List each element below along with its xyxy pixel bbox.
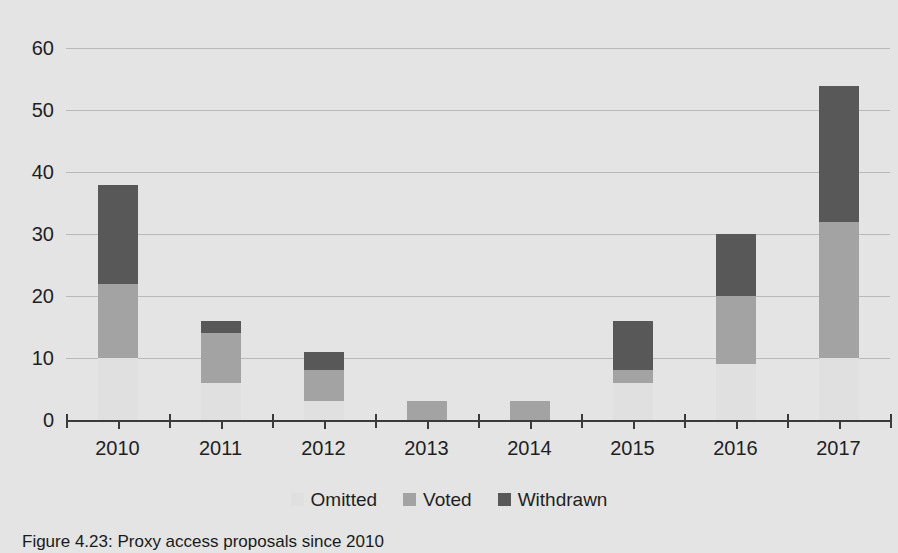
x-tick-major-6: [684, 414, 686, 428]
y-tick-label-20: 20: [32, 286, 54, 306]
x-tick-major-4: [478, 414, 480, 428]
x-tick-minor-2015: [633, 420, 635, 429]
y-tick-label-10: 10: [32, 348, 54, 368]
bar-segment-2016-withdrawn: [716, 234, 756, 296]
x-tick-label-2013: 2013: [404, 438, 449, 458]
bar-segment-2017-voted: [819, 222, 859, 358]
bar-group-2014: [478, 36, 581, 420]
legend-label-omitted: Omitted: [311, 490, 378, 509]
y-tick-label-30: 30: [32, 224, 54, 244]
y-tick-label-60: 60: [32, 38, 54, 58]
x-tick-minor-2014: [530, 420, 532, 429]
bar-group-2010: [66, 36, 169, 420]
x-axis: 20102011201220132014201520162017: [66, 420, 890, 421]
x-tick-major-2: [272, 414, 274, 428]
bar-segment-2012-voted: [304, 370, 344, 401]
bar-group-2012: [272, 36, 375, 420]
figure-caption-text: Figure 4.23: Proxy access proposals sinc…: [22, 532, 384, 551]
bar-group-2017: [787, 36, 890, 420]
bar-segment-2013-voted: [407, 401, 447, 420]
x-tick-major-5: [581, 414, 583, 428]
x-tick-label-2011: 2011: [199, 438, 242, 458]
x-tick-minor-2013: [427, 420, 429, 429]
bar-group-2016: [684, 36, 787, 420]
bar-segment-2016-voted: [716, 296, 756, 364]
bar-group-2013: [375, 36, 478, 420]
bar-segment-2012-withdrawn: [304, 352, 344, 371]
x-tick-major-7: [787, 414, 789, 428]
legend-item-withdrawn[interactable]: Withdrawn: [498, 490, 608, 509]
x-tick-label-2012: 2012: [301, 438, 346, 458]
bar-segment-2014-voted: [510, 401, 550, 420]
bar-segment-2010-omitted: [98, 358, 138, 420]
legend-label-voted: Voted: [423, 490, 472, 509]
legend-swatch-withdrawn: [498, 493, 511, 506]
plot-area: 0102030405060: [66, 36, 890, 420]
x-tick-major-1: [169, 414, 171, 428]
bar-group-2011: [169, 36, 272, 420]
bar-segment-2011-voted: [201, 333, 241, 383]
x-tick-label-2010: 2010: [95, 438, 140, 458]
x-tick-label-2014: 2014: [507, 438, 552, 458]
bar-segment-2015-voted: [613, 370, 653, 382]
legend-item-omitted[interactable]: Omitted: [291, 490, 378, 509]
bar-segment-2017-withdrawn: [819, 86, 859, 222]
y-tick-label-40: 40: [32, 162, 54, 182]
chart-legend: OmittedVotedWithdrawn: [0, 490, 898, 509]
x-tick-label-2016: 2016: [713, 438, 758, 458]
x-tick-minor-2011: [221, 420, 223, 429]
figure-caption: Figure 4.23: Proxy access proposals sinc…: [22, 531, 882, 553]
bar-group-2015: [581, 36, 684, 420]
bar-segment-2010-voted: [98, 284, 138, 358]
legend-swatch-voted: [403, 493, 416, 506]
bar-segment-2010-withdrawn: [98, 185, 138, 284]
legend-swatch-omitted: [291, 493, 304, 506]
bar-segment-2016-omitted: [716, 364, 756, 420]
x-tick-minor-2012: [324, 420, 326, 429]
x-tick-major-0: [66, 414, 68, 428]
x-tick-minor-2016: [736, 420, 738, 429]
y-tick-label-50: 50: [32, 100, 54, 120]
x-tick-label-2017: 2017: [816, 438, 861, 458]
bar-series-container: [66, 36, 890, 420]
bar-segment-2015-withdrawn: [613, 321, 653, 371]
x-tick-minor-2017: [839, 420, 841, 429]
y-tick-label-0: 0: [43, 410, 54, 430]
bar-segment-2011-withdrawn: [201, 321, 241, 333]
bar-segment-2012-omitted: [304, 401, 344, 420]
x-tick-major-3: [375, 414, 377, 428]
bar-segment-2011-omitted: [201, 383, 241, 420]
x-tick-minor-2010: [118, 420, 120, 429]
legend-label-withdrawn: Withdrawn: [518, 490, 608, 509]
legend-item-voted[interactable]: Voted: [403, 490, 472, 509]
bar-segment-2017-omitted: [819, 358, 859, 420]
x-tick-major-8: [890, 414, 892, 428]
bar-segment-2015-omitted: [613, 383, 653, 420]
x-tick-label-2015: 2015: [610, 438, 655, 458]
